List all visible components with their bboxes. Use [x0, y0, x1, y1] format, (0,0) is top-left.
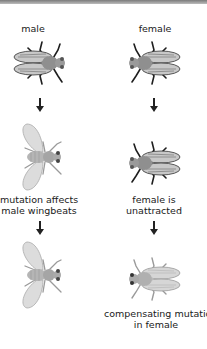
female-step3-caption-line1: compensating mutation: [104, 308, 207, 319]
female-step2-caption-line1: female is: [115, 194, 193, 205]
male-step2-caption-line1: mutation affects: [0, 194, 78, 205]
female-fly-compensating: [126, 254, 186, 304]
down-arrow-icon: [36, 98, 44, 112]
down-arrow-icon: [36, 221, 44, 235]
down-arrow-icon: [150, 98, 158, 112]
male-fly-original: [8, 38, 68, 88]
male-heading: male: [8, 23, 58, 34]
male-fly-mutated-final: [15, 240, 65, 310]
down-arrow-icon: [150, 221, 158, 235]
male-step2-caption-line2: male wingbeats: [0, 205, 78, 216]
female-step2-caption-line2: unattracted: [115, 205, 193, 216]
female-fly-unattracted: [126, 138, 186, 188]
female-fly-original: [126, 38, 186, 88]
female-heading: female: [130, 23, 180, 34]
female-step3-caption-line2: in female: [104, 319, 207, 330]
male-fly-mutated: [15, 122, 65, 192]
top-border: [0, 0, 207, 4]
